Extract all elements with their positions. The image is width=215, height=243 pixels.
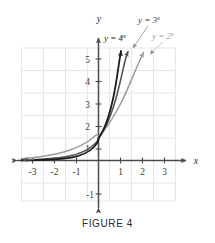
curve-label-3x: y = 3x bbox=[137, 14, 160, 25]
x-tick-neg3: -3 bbox=[29, 167, 37, 177]
y-tick-neg1: -1 bbox=[86, 190, 94, 200]
exponential-functions-chart: y x -3 -2 -1 1 2 3 5 4 3 2 1 -1 y = 4x y… bbox=[0, 0, 215, 243]
curve-4-to-the-x bbox=[22, 51, 122, 160]
y-tick-1: 1 bbox=[85, 144, 90, 154]
x-tick-2: 2 bbox=[140, 167, 145, 177]
figure-caption: FIGURE 4 bbox=[0, 218, 215, 229]
figure-4-container: y x -3 -2 -1 1 2 3 5 4 3 2 1 -1 y = 4x y… bbox=[0, 0, 215, 243]
y-tick-2: 2 bbox=[85, 122, 90, 132]
y-tick-5: 5 bbox=[85, 55, 90, 65]
curve-2-to-the-x bbox=[22, 53, 144, 159]
x-tick-1: 1 bbox=[118, 167, 123, 177]
x-tick-3: 3 bbox=[162, 167, 167, 177]
x-axis-label: x bbox=[193, 155, 199, 166]
axis-lines bbox=[17, 38, 186, 208]
y-axis-label: y bbox=[96, 13, 102, 24]
y-tick-4: 4 bbox=[85, 77, 90, 87]
x-tick-neg1: -1 bbox=[73, 167, 81, 177]
x-tick-neg2: -2 bbox=[51, 167, 59, 177]
leader-line-3x bbox=[133, 26, 148, 48]
y-tick-3: 3 bbox=[85, 100, 90, 110]
curve-left-tail-arrow bbox=[23, 159, 34, 160]
curve-label-4x: y = 4x bbox=[103, 32, 126, 43]
curve-label-2x: y = 2x bbox=[151, 30, 174, 41]
